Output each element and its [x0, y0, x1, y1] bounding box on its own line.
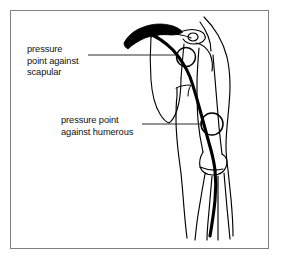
scapular-spine-detail — [176, 85, 191, 96]
annotation-label-humerous: pressure point against humerous — [61, 115, 133, 138]
brachial-artery — [148, 33, 216, 236]
annotation-humerous-line-1: pressure point — [61, 115, 133, 127]
annotation-scapular-line-2: point against — [27, 56, 78, 68]
annotation-scapular-line-3: scapular — [27, 67, 78, 79]
annotation-humerous-line-2: against humerous — [61, 127, 133, 139]
anatomy-line-drawing — [0, 0, 281, 261]
figure-root: pressure point against scapular pressure… — [0, 0, 281, 261]
annotation-scapular-line-1: pressure — [27, 44, 78, 56]
annotation-label-scapular: pressure point against scapular — [27, 44, 78, 79]
